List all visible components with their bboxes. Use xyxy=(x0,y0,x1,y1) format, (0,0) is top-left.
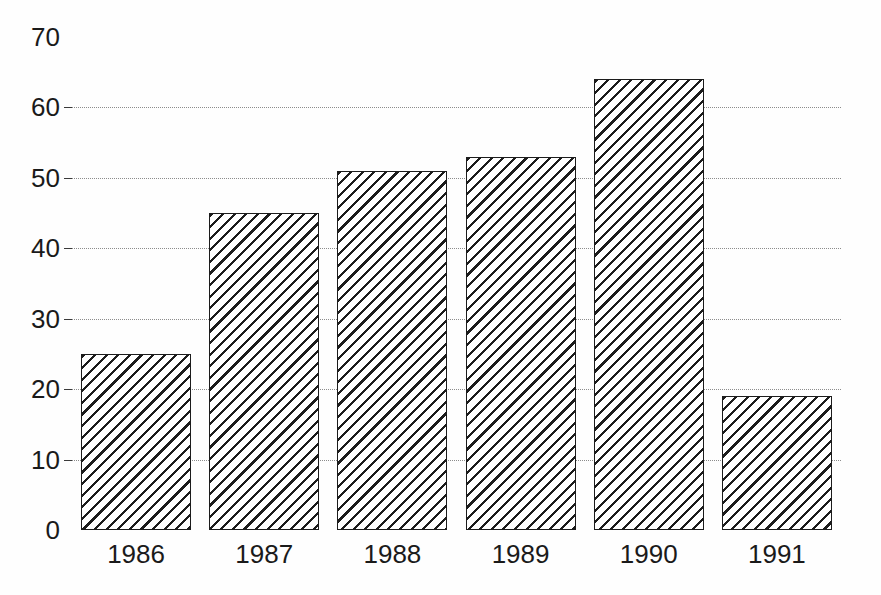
y-tick-label-0: 0 xyxy=(10,517,60,543)
x-tick-label-1986: 1986 xyxy=(72,541,200,567)
plot-area xyxy=(72,37,841,530)
y-tick-mark-40 xyxy=(64,248,72,249)
y-tick-label-60: 60 xyxy=(10,94,60,120)
gridline-40 xyxy=(72,248,841,249)
x-tick-label-1991: 1991 xyxy=(713,541,841,567)
bar-1988 xyxy=(337,171,447,530)
bar-1990 xyxy=(594,79,704,530)
x-tick-label-1987: 1987 xyxy=(200,541,328,567)
gridline-30 xyxy=(72,319,841,320)
y-tick-mark-50 xyxy=(64,178,72,179)
bar-1987 xyxy=(209,213,319,530)
y-tick-mark-10 xyxy=(64,460,72,461)
y-tick-mark-30 xyxy=(64,319,72,320)
y-tick-label-30: 30 xyxy=(10,306,60,332)
x-tick-label-1988: 1988 xyxy=(328,541,456,567)
bar-1989 xyxy=(466,157,576,530)
bar-1991 xyxy=(722,396,832,530)
x-tick-label-1989: 1989 xyxy=(457,541,585,567)
y-tick-label-70: 70 xyxy=(10,24,60,50)
y-tick-mark-60 xyxy=(64,107,72,108)
y-tick-label-40: 40 xyxy=(10,235,60,261)
gridline-50 xyxy=(72,178,841,179)
y-tick-label-10: 10 xyxy=(10,447,60,473)
x-tick-label-1990: 1990 xyxy=(585,541,713,567)
y-tick-mark-20 xyxy=(64,389,72,390)
y-tick-label-20: 20 xyxy=(10,376,60,402)
gridline-60 xyxy=(72,107,841,108)
y-tick-label-50: 50 xyxy=(10,165,60,191)
bar-1986 xyxy=(81,354,191,530)
bar-chart-figure: 010203040506070 198619871988198919901991 xyxy=(0,0,881,595)
